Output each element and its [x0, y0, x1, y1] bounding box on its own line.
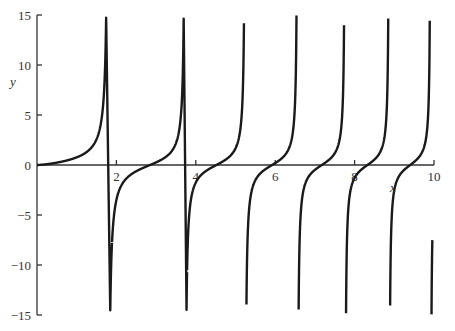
y-tick-label: 15 — [18, 8, 31, 23]
axes: 151050−5−10−15246810 — [11, 8, 441, 323]
x-tick-label: 6 — [272, 169, 279, 184]
x-tick-label: 10 — [428, 169, 441, 184]
curve-branch — [112, 19, 187, 310]
curve-branch — [299, 25, 344, 309]
y-tick-label: 0 — [25, 158, 32, 173]
curve-branch — [187, 23, 244, 270]
curve-branch — [390, 21, 430, 306]
y-tick-label: −5 — [17, 208, 31, 223]
y-tick-label: −15 — [11, 308, 31, 323]
curve-branch — [37, 18, 112, 311]
y-tick-label: 10 — [18, 58, 31, 73]
curve-branch — [432, 240, 433, 314]
curve-branch — [246, 15, 296, 304]
y-axis-label: y — [8, 74, 16, 89]
x-tick-label: 2 — [113, 169, 120, 184]
y-tick-label: 5 — [25, 108, 32, 123]
chart-plot-area: 151050−5−10−15246810 x y — [0, 0, 455, 331]
curve-branch — [346, 19, 388, 314]
x-axis-label: x — [389, 180, 396, 195]
y-tick-label: −10 — [11, 258, 31, 273]
